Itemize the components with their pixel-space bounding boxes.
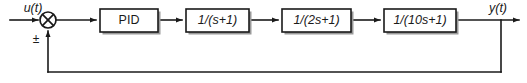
pid-block[interactable]: PID	[100, 9, 161, 35]
summing-junction[interactable]	[40, 12, 56, 28]
input-signal-label: u(t)	[24, 1, 43, 15]
plant-block-1-label: 1/(s+1)	[198, 13, 237, 27]
plant-block-2[interactable]: 1/(2s+1)	[282, 9, 354, 35]
plant-block-3-label: 1/(10s+1)	[393, 13, 446, 27]
output-signal-label: y(t)	[488, 1, 507, 15]
plant-block-2-label: 1/(2s+1)	[293, 13, 339, 27]
block-diagram-canvas: ± PID 1/(s+1) 1/(2s+1) 1/(10s+1) u(t) y(…	[0, 0, 527, 83]
block-diagram-svg: ± PID 1/(s+1) 1/(2s+1) 1/(10s+1) u(t) y(…	[0, 0, 527, 83]
pid-block-label: PID	[119, 13, 140, 27]
plant-block-1[interactable]: 1/(s+1)	[186, 9, 252, 35]
plant-block-3[interactable]: 1/(10s+1)	[384, 9, 459, 35]
summing-junction-sign-label: ±	[33, 32, 40, 46]
